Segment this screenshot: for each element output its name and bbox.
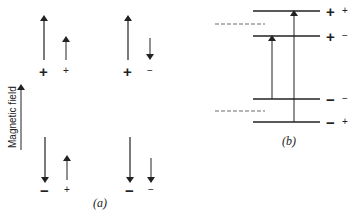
diagram-canvas [0,0,354,216]
level-electron-label: + [326,29,335,44]
state-nucleus-label: − [147,66,153,76]
level-nucleus-label: + [342,6,348,16]
level-nucleus-label: − [342,94,348,104]
magnetic-field-label: Magnetic field [7,86,18,148]
level-nucleus-label: − [342,31,348,41]
level-electron-label: + [326,4,335,19]
state-electron-label: − [125,183,134,198]
state-electron-label: + [39,64,48,79]
panel-a-state-plus-minus [128,18,150,60]
state-electron-label: − [40,183,49,198]
panel-a-state-minus-plus [45,137,67,180]
panel-a-state-plus-plus [44,18,66,60]
panel-b-energy-levels [215,11,320,122]
state-electron-label: + [123,64,132,79]
level-electron-label: − [326,115,335,130]
panel-a-caption: (a) [93,196,107,211]
panel-b-caption: (b) [282,134,296,149]
panel-b-transitions [272,13,294,122]
panel-a-state-minus-minus [130,137,151,180]
state-nucleus-label: + [64,185,70,195]
state-nucleus-label: − [148,185,154,195]
level-electron-label: − [326,92,335,107]
state-nucleus-label: + [63,66,69,76]
level-nucleus-label: + [342,117,348,127]
